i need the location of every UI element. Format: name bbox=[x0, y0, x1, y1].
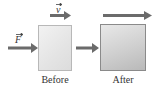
after-label: After bbox=[103, 74, 143, 85]
force-arrow-icon bbox=[8, 43, 38, 53]
velocity-before-arrow-icon bbox=[50, 11, 71, 20]
velocity-after-arrow-icon bbox=[103, 11, 152, 20]
force-symbol: F bbox=[15, 34, 21, 45]
transition-arrow-icon bbox=[76, 43, 99, 53]
before-label: Before bbox=[35, 74, 75, 85]
diagram: F v Before After bbox=[0, 0, 157, 90]
velocity-symbol: v bbox=[56, 4, 60, 15]
